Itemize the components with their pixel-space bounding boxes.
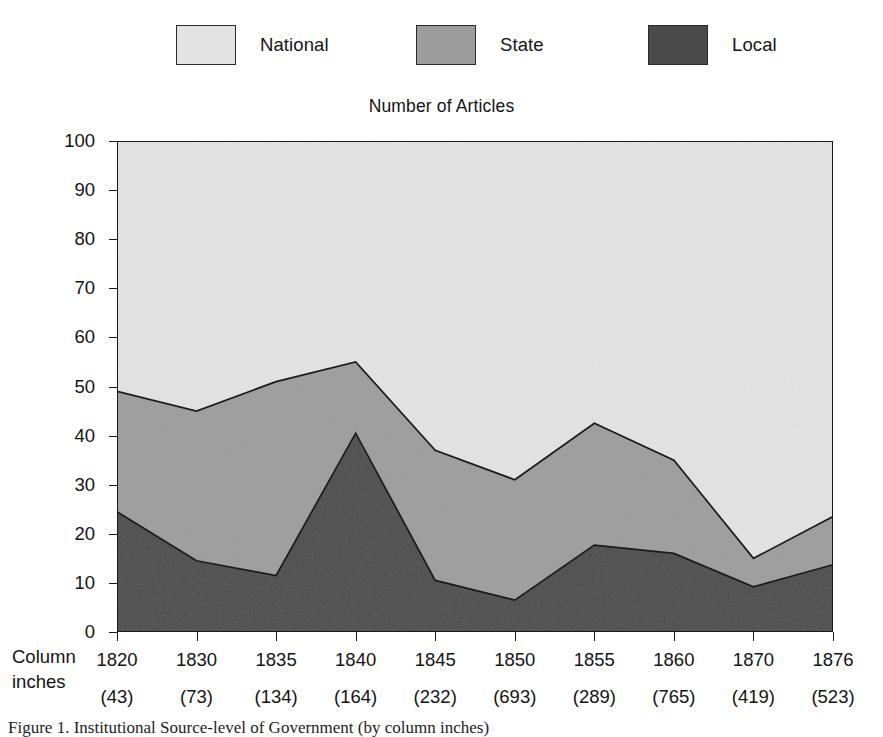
legend-label-state: State bbox=[500, 34, 544, 56]
chart-legend: National State Local bbox=[0, 22, 883, 68]
y-tick-label: 20 bbox=[5, 525, 95, 544]
y-tick-mark bbox=[109, 583, 117, 584]
plot-area: Percent 0102030405060708090100 1820(43)1… bbox=[117, 141, 833, 632]
y-tick-label: 40 bbox=[5, 427, 95, 446]
y-tick-label: 90 bbox=[5, 181, 95, 200]
legend-label-local: Local bbox=[732, 34, 777, 56]
x-tick-mark bbox=[833, 632, 834, 641]
stacked-area-svg bbox=[117, 141, 833, 632]
x-tick-mark bbox=[435, 632, 436, 641]
y-tick-mark bbox=[109, 485, 117, 486]
y-tick-label: 100 bbox=[5, 132, 95, 151]
x-tick-mark bbox=[356, 632, 357, 641]
y-tick-mark bbox=[109, 534, 117, 535]
x-tick-mark bbox=[276, 632, 277, 641]
legend-swatch-local bbox=[648, 25, 708, 65]
y-tick-label: 60 bbox=[5, 328, 95, 347]
x-tick-label-column-inches: (523) bbox=[778, 686, 883, 708]
column-inches-label-line2: inches bbox=[12, 670, 116, 695]
y-tick-mark bbox=[109, 436, 117, 437]
x-tick-mark bbox=[117, 632, 118, 641]
column-inches-axis-label: Column inches bbox=[12, 645, 116, 694]
legend-item-national: National bbox=[176, 22, 329, 68]
legend-item-local: Local bbox=[648, 22, 777, 68]
legend-swatch-state bbox=[416, 25, 476, 65]
y-tick-mark bbox=[109, 239, 117, 240]
y-tick-mark bbox=[109, 288, 117, 289]
y-tick-label: 10 bbox=[5, 574, 95, 593]
y-tick-label: 70 bbox=[5, 279, 95, 298]
x-tick-mark bbox=[594, 632, 595, 641]
legend-item-state: State bbox=[416, 22, 544, 68]
y-tick-label: 50 bbox=[5, 378, 95, 397]
y-tick-mark bbox=[109, 141, 117, 142]
y-tick-mark bbox=[109, 337, 117, 338]
y-tick-label: 30 bbox=[5, 476, 95, 495]
y-tick-mark bbox=[109, 632, 117, 633]
legend-label-national: National bbox=[260, 34, 329, 56]
x-tick-mark bbox=[674, 632, 675, 641]
x-tick-mark bbox=[197, 632, 198, 641]
y-tick-label: 80 bbox=[5, 230, 95, 249]
legend-swatch-national bbox=[176, 25, 236, 65]
column-inches-label-line1: Column bbox=[12, 645, 116, 670]
y-tick-label: 0 bbox=[5, 623, 95, 642]
figure-caption: Figure 1. Institutional Source-level of … bbox=[8, 718, 883, 737]
chart-title: Number of Articles bbox=[0, 96, 883, 117]
y-tick-mark bbox=[109, 387, 117, 388]
x-tick-mark bbox=[753, 632, 754, 641]
x-tick-label-year: 1876 bbox=[778, 649, 883, 671]
y-tick-mark bbox=[109, 190, 117, 191]
x-tick-mark bbox=[515, 632, 516, 641]
